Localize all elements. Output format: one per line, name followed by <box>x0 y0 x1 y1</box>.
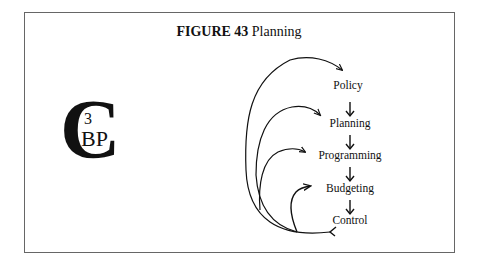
down-arrow-icon <box>346 200 354 214</box>
down-arrow-icon <box>346 135 354 149</box>
stage-policy: Policy <box>298 78 398 92</box>
stage-programming: Programming <box>300 148 400 162</box>
down-arrow-icon <box>346 167 354 181</box>
down-arrow-icon <box>346 102 354 116</box>
stage-budgeting: Budgeting <box>300 181 400 195</box>
stage-planning: Planning <box>300 116 400 130</box>
stage-control: Control <box>300 213 400 227</box>
loop-control-to-programming <box>260 149 305 210</box>
control-return-arrowhead <box>330 227 336 236</box>
planning-cycle-diagram <box>0 0 478 266</box>
